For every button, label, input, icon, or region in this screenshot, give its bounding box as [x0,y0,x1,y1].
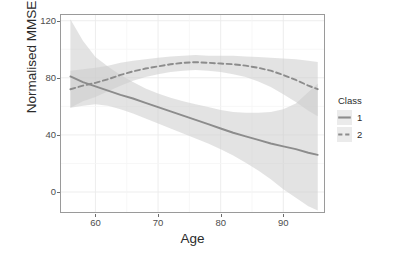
x-tick-label: 90 [268,217,298,228]
legend-key-1 [337,110,352,125]
legend-items: 12 [337,110,392,142]
legend-key-2 [337,127,352,142]
legend-item-2[interactable]: 2 [337,127,392,142]
chart-figure: Normalised MMSE 04080120 Age Class 12 60… [0,0,394,261]
legend-label: 1 [357,112,362,123]
y-tick-mark [57,135,60,136]
y-tick-label: 120 [30,16,56,26]
y-tick-label: 80 [30,73,56,83]
x-tick-mark [221,214,222,217]
legend-title: Class [337,95,392,106]
x-axis-title: Age [60,231,325,246]
legend: Class 12 [337,95,392,144]
x-tick-mark [158,214,159,217]
x-tick-mark [95,214,96,217]
x-tick-label: 80 [206,217,236,228]
y-tick-label: 40 [30,130,56,140]
y-axis-tick-labels: 04080120 [30,0,56,261]
plot-area-svg [61,15,324,212]
x-tick-label: 70 [143,217,173,228]
legend-label: 2 [357,129,362,140]
x-tick-mark [283,214,284,217]
y-tick-mark [57,78,60,79]
y-tick-mark [57,21,60,22]
y-tick-label: 0 [30,187,56,197]
y-tick-mark [57,192,60,193]
plot-panel [60,14,325,213]
x-tick-label: 60 [80,217,110,228]
legend-item-1[interactable]: 1 [337,110,392,125]
